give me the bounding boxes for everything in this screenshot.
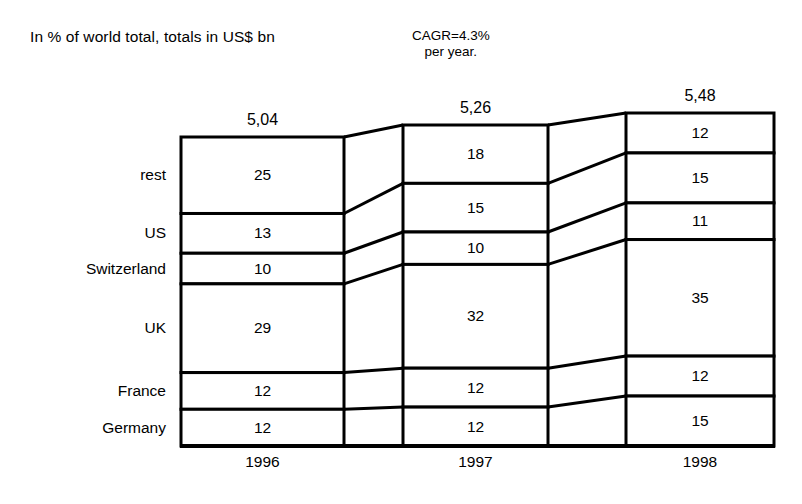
segment-value-Switzerland: 10 xyxy=(254,260,272,277)
segment-value-Germany: 12 xyxy=(254,419,271,436)
column-total-1998: 5,48 xyxy=(684,87,715,104)
connector-band-group-2 xyxy=(548,113,626,446)
segment-value-Germany: 15 xyxy=(691,412,708,429)
row-label-France: France xyxy=(118,382,166,399)
segment-value-rest: 12 xyxy=(691,124,708,141)
segment-value-France: 12 xyxy=(691,367,708,384)
column-1996[interactable]: 2513102912125,041996 xyxy=(181,111,344,470)
row-label-rest: rest xyxy=(140,166,167,183)
column-1997[interactable]: 1815103212125,261997 xyxy=(403,99,548,470)
connector-band-Germany xyxy=(344,407,403,446)
column-total-1996: 5,04 xyxy=(247,111,278,128)
x-axis-label-1997: 1997 xyxy=(458,453,492,470)
row-label-UK: UK xyxy=(144,319,166,336)
segment-value-France: 12 xyxy=(467,379,484,396)
segment-value-rest: 18 xyxy=(467,145,484,162)
x-axis-label-1996: 1996 xyxy=(245,453,279,470)
segment-value-UK: 35 xyxy=(691,289,708,306)
chart-canvas: In % of world total, totals in US$ bn CA… xyxy=(0,0,802,504)
segment-value-Germany: 12 xyxy=(467,418,484,435)
connector-band-France xyxy=(344,368,403,409)
segment-value-Switzerland: 11 xyxy=(692,212,708,229)
segment-value-UK: 29 xyxy=(254,319,271,336)
segment-value-UK: 32 xyxy=(467,307,484,324)
segment-value-France: 12 xyxy=(254,382,271,399)
connector-band-group-1 xyxy=(344,125,403,446)
x-axis-label-1998: 1998 xyxy=(683,453,717,470)
column-1998[interactable]: 1215113512155,481998 xyxy=(626,87,774,470)
row-label-Germany: Germany xyxy=(102,419,166,436)
row-label-US: US xyxy=(144,224,166,241)
segment-value-US: 15 xyxy=(691,169,708,186)
segment-value-Switzerland: 10 xyxy=(467,239,485,256)
segment-value-US: 15 xyxy=(467,199,484,216)
stacked-column-chart: 2513102912125,0419961815103212125,261997… xyxy=(0,0,802,504)
row-label-Switzerland: Switzerland xyxy=(86,260,166,277)
segment-value-rest: 25 xyxy=(254,166,271,183)
column-total-1997: 5,26 xyxy=(460,99,491,116)
segment-value-US: 13 xyxy=(254,224,271,241)
